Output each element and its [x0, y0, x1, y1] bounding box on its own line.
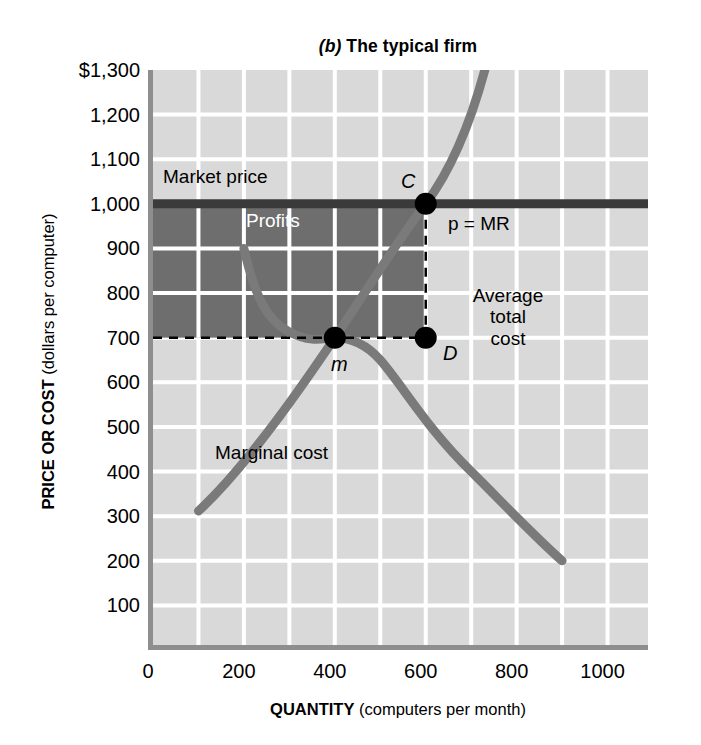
x-axis-tick-800: 800: [495, 660, 528, 683]
equals-mr-text: = MR: [459, 213, 510, 234]
x-axis-tick-0: 0: [142, 660, 153, 683]
chart-figure: (b) The typical firm: [0, 0, 701, 745]
atc-line-3: cost: [453, 328, 563, 349]
x-axis-tick-200: 200: [222, 660, 255, 683]
x-axis-title-rest: (computers per month): [354, 700, 525, 718]
y-axis-title-rest: (dollars per computer): [39, 213, 57, 379]
x-axis-tick-600: 600: [404, 660, 437, 683]
x-axis-title-strong: QUANTITY: [270, 700, 354, 718]
profits-label: Profits: [246, 210, 300, 232]
chart-svg: [153, 70, 648, 650]
plot-inner: Market price Profits p = MR Average tota…: [153, 70, 648, 650]
p-equals-mr-label: p = MR: [448, 213, 510, 235]
x-axis-title: QUANTITY (computers per month): [148, 700, 648, 719]
point-label-m: m: [331, 353, 348, 376]
y-axis-title-strong: PRICE OR COST: [39, 379, 57, 509]
x-axis-tick-labels: 02004006008001000: [148, 660, 648, 690]
p-symbol: p: [448, 213, 459, 234]
title-text: The typical firm: [341, 36, 477, 56]
point-marker-m: [324, 327, 346, 349]
point-marker-d: [415, 327, 437, 349]
point-marker-c: [415, 193, 437, 215]
plot-area: Market price Profits p = MR Average tota…: [148, 70, 648, 650]
atc-line-1: Average: [453, 285, 563, 306]
x-axis-tick-400: 400: [313, 660, 346, 683]
point-label-d: D: [443, 342, 457, 365]
title-prefix: (b): [319, 36, 342, 56]
page-title: (b) The typical firm: [148, 36, 648, 57]
atc-line-2: total: [453, 306, 563, 327]
marginal-cost-label: Marginal cost: [215, 442, 328, 464]
average-total-cost-label: Average total cost: [453, 285, 563, 349]
point-label-c: C: [401, 170, 415, 193]
x-axis-tick-1000: 1000: [580, 660, 625, 683]
market-price-label: Market price: [163, 166, 268, 188]
gridlines-vertical: [198, 70, 607, 650]
y-axis-title: PRICE OR COST (dollars per computer): [39, 72, 58, 652]
